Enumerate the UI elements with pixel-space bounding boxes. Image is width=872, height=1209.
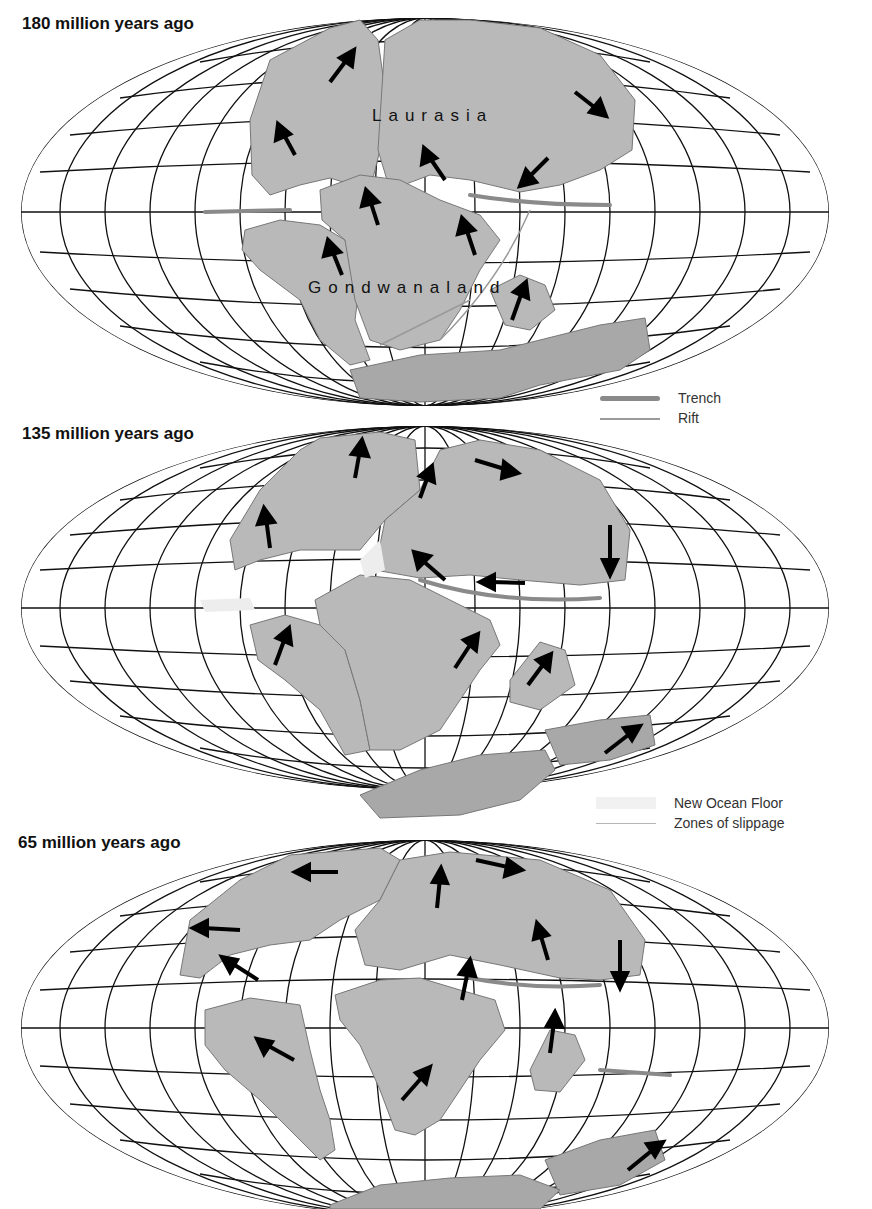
australia: [545, 715, 655, 765]
legend-label: Zones of slippage: [674, 815, 785, 831]
world-map-65mya: [0, 830, 872, 1209]
antarctica: [330, 1175, 560, 1209]
africa: [335, 978, 505, 1135]
india: [530, 1030, 585, 1092]
india: [510, 642, 575, 710]
south-america: [205, 998, 335, 1160]
antarctica: [360, 750, 555, 818]
world-map-135mya: [0, 410, 872, 830]
gondwanaland-label: Gondwanaland: [308, 278, 506, 297]
panel-135mya: 135 million years ago: [0, 410, 872, 830]
continents: [230, 432, 655, 818]
legend-ocean-slippage: New Ocean Floor Zones of slippage: [596, 793, 785, 833]
laurasia-label: Laurasia: [372, 106, 493, 125]
ocean-floor-swatch: [596, 793, 656, 813]
legend-item-new-ocean-floor: New Ocean Floor: [596, 793, 785, 813]
legend-item-trench: Trench: [600, 388, 721, 408]
australia: [545, 1130, 665, 1195]
legend-label: New Ocean Floor: [674, 795, 783, 811]
panel-180mya: 180 million years ago: [0, 0, 872, 410]
panel-65mya: 65 million years ago: [0, 830, 872, 1209]
world-map-180mya: Laurasia Gondwanaland: [0, 0, 872, 410]
trench-swatch: [600, 388, 660, 408]
legend-label: Trench: [678, 390, 721, 406]
laurasia-west: [250, 20, 385, 195]
